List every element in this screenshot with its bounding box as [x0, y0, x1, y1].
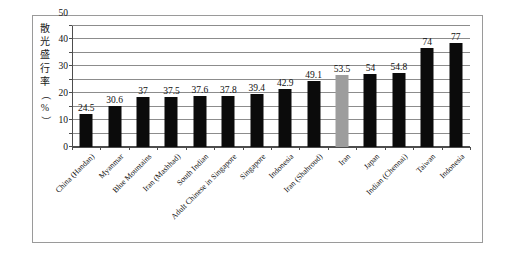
x-tick-mark: [271, 147, 272, 150]
y-axis-title-char: 率: [40, 75, 50, 88]
y-axis-title-char: ）: [38, 116, 51, 126]
x-tick-mark: [72, 147, 73, 150]
y-tick-label: 10: [59, 115, 69, 125]
bar-slot: 42.9: [271, 26, 299, 147]
x-tick-mark: [413, 147, 414, 150]
x-tick-mark: [470, 147, 471, 150]
bar: [307, 81, 320, 147]
bar: [279, 89, 292, 147]
x-tick-mark: [100, 147, 101, 150]
y-axis-title-char: %: [41, 101, 49, 114]
bar-value-label: 24.5: [78, 103, 95, 113]
bar-slot: 54.8: [385, 26, 413, 147]
y-tick-label: 0: [63, 142, 68, 152]
x-tick-mark: [328, 147, 329, 150]
bar-slot: 49.1: [299, 26, 327, 147]
bar-value-label: 74: [423, 37, 433, 47]
bar-value-label: 53.5: [334, 64, 351, 74]
bar: [222, 96, 235, 147]
bar: [165, 97, 178, 147]
x-tick-mark: [442, 147, 443, 150]
bar-value-label: 42.9: [277, 78, 294, 88]
bar-slot: 37: [129, 26, 157, 147]
bar-slot: 74: [413, 26, 441, 147]
bar-slot: 54: [356, 26, 384, 147]
figure-root: 散光盛行率（%） 0102030405060708090 24.530.6373…: [0, 0, 508, 259]
bar: [336, 75, 349, 147]
bar-value-label: 49.1: [305, 70, 322, 80]
y-tick-label: 20: [59, 88, 69, 98]
x-tick-mark: [214, 147, 215, 150]
bar-value-label: 54: [366, 63, 376, 73]
bar: [137, 97, 150, 147]
bar-slot: 39.4: [243, 26, 271, 147]
x-tick-mark: [157, 147, 158, 150]
bar: [421, 48, 434, 147]
x-tick-mark: [356, 147, 357, 150]
y-axis-title: 散光盛行率（%）: [34, 22, 56, 152]
bar-slot: 77: [442, 26, 470, 147]
x-tick-mark: [385, 147, 386, 150]
bar-slot: 24.5: [72, 26, 100, 147]
y-tick-label: 40: [59, 34, 69, 44]
bar-value-label: 37.5: [163, 86, 180, 96]
bar-value-label: 30.6: [106, 95, 123, 105]
bar: [364, 74, 377, 147]
x-tick-mark: [299, 147, 300, 150]
bar: [250, 94, 263, 147]
bar-slot: 30.6: [100, 26, 128, 147]
bar-slot: 37.6: [186, 26, 214, 147]
bar-slot: 53.5: [328, 26, 356, 147]
bar-slot: 37.8: [214, 26, 242, 147]
x-tick-mark: [243, 147, 244, 150]
plot-area: 0102030405060708090 24.530.63737.537.637…: [72, 26, 470, 147]
y-tick-label: 30: [59, 61, 69, 71]
bars-layer: 24.530.63737.537.637.839.442.949.153.554…: [72, 26, 470, 147]
bar: [80, 114, 93, 147]
y-axis-title-char: 行: [40, 62, 50, 75]
x-tick-mark: [186, 147, 187, 150]
y-axis-title-char: （: [38, 90, 51, 100]
bar-value-label: 54.8: [391, 62, 408, 72]
y-axis-title-char: 光: [40, 35, 50, 48]
x-tick-mark: [129, 147, 130, 150]
bar: [449, 43, 462, 147]
bar: [108, 106, 121, 147]
bar-value-label: 39.4: [248, 83, 265, 93]
bar: [392, 73, 405, 147]
y-tick-label: 50: [59, 8, 69, 18]
bar: [193, 96, 206, 147]
bar-value-label: 37.8: [220, 85, 237, 95]
y-axis-title-char: 盛: [40, 48, 50, 61]
bar-value-label: 77: [451, 32, 461, 42]
bar-value-label: 37.6: [192, 85, 209, 95]
bar-slot: 37.5: [157, 26, 185, 147]
y-axis-title-char: 散: [40, 22, 50, 35]
bar-value-label: 37: [138, 86, 148, 96]
